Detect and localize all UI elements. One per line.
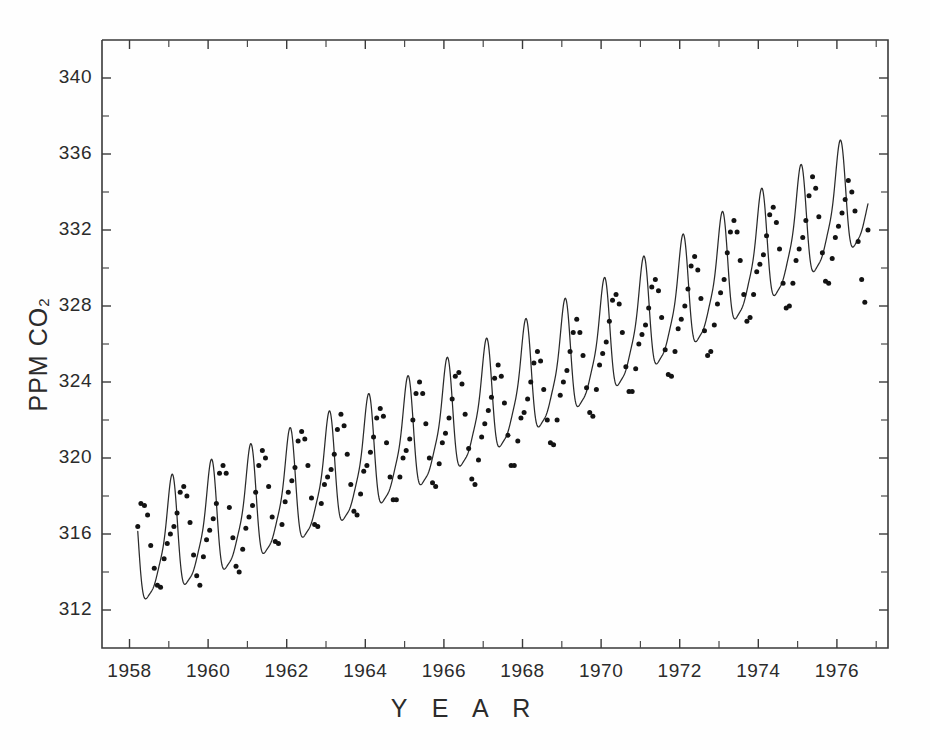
data-point bbox=[184, 494, 189, 499]
data-point bbox=[607, 319, 612, 324]
data-point bbox=[348, 482, 353, 487]
x-tick-label: 1962 bbox=[247, 660, 327, 682]
data-point bbox=[840, 210, 845, 215]
data-point bbox=[643, 323, 648, 328]
data-point bbox=[522, 410, 527, 415]
data-point bbox=[240, 547, 245, 552]
data-point bbox=[450, 397, 455, 402]
data-point bbox=[191, 552, 196, 557]
data-point bbox=[171, 524, 176, 529]
data-point bbox=[482, 421, 487, 426]
data-point bbox=[807, 193, 812, 198]
data-point bbox=[515, 438, 520, 443]
data-point bbox=[787, 304, 792, 309]
data-point bbox=[145, 513, 150, 518]
data-point bbox=[443, 431, 448, 436]
data-point bbox=[728, 229, 733, 234]
data-point bbox=[741, 292, 746, 297]
data-point bbox=[165, 541, 170, 546]
axis-frame-rect bbox=[102, 40, 888, 648]
data-point bbox=[263, 456, 268, 461]
data-point bbox=[836, 224, 841, 229]
data-point bbox=[440, 440, 445, 445]
data-point bbox=[518, 416, 523, 421]
data-point bbox=[472, 482, 477, 487]
data-point bbox=[315, 524, 320, 529]
data-point bbox=[538, 359, 543, 364]
data-point bbox=[561, 380, 566, 385]
data-point bbox=[407, 437, 412, 442]
data-point bbox=[862, 300, 867, 305]
data-point bbox=[849, 190, 854, 195]
data-point bbox=[623, 364, 628, 369]
data-point bbox=[702, 328, 707, 333]
data-point bbox=[292, 465, 297, 470]
data-point bbox=[852, 209, 857, 214]
data-point bbox=[230, 535, 235, 540]
data-point bbox=[355, 513, 360, 518]
data-point bbox=[594, 387, 599, 392]
data-point bbox=[581, 353, 586, 358]
data-point bbox=[545, 418, 550, 423]
data-point bbox=[531, 361, 536, 366]
data-point bbox=[620, 330, 625, 335]
data-point bbox=[685, 286, 690, 291]
data-point bbox=[555, 418, 560, 423]
data-point bbox=[397, 475, 402, 480]
data-point bbox=[459, 381, 464, 386]
data-point bbox=[305, 463, 310, 468]
data-point bbox=[551, 442, 556, 447]
data-point bbox=[790, 281, 795, 286]
data-point bbox=[456, 370, 461, 375]
data-point bbox=[718, 290, 723, 295]
data-point bbox=[764, 233, 769, 238]
data-point bbox=[656, 288, 661, 293]
data-point bbox=[663, 347, 668, 352]
data-point bbox=[237, 570, 242, 575]
y-axis-title: PPM CO2 bbox=[24, 255, 53, 455]
data-point bbox=[332, 452, 337, 457]
x-tick-label: 1976 bbox=[797, 660, 877, 682]
data-point bbox=[256, 463, 261, 468]
data-point bbox=[401, 456, 406, 461]
x-tick-label: 1958 bbox=[90, 660, 170, 682]
data-point bbox=[574, 317, 579, 322]
data-point bbox=[630, 389, 635, 394]
data-point bbox=[342, 423, 347, 428]
data-point bbox=[299, 429, 304, 434]
data-point bbox=[771, 205, 776, 210]
data-point bbox=[820, 250, 825, 255]
data-point bbox=[489, 395, 494, 400]
data-point bbox=[715, 302, 720, 307]
data-point bbox=[381, 414, 386, 419]
data-point bbox=[207, 528, 212, 533]
data-point bbox=[335, 427, 340, 432]
data-point bbox=[794, 258, 799, 263]
data-point bbox=[374, 416, 379, 421]
data-point bbox=[168, 532, 173, 537]
y-tick-label: 332 bbox=[30, 218, 92, 240]
x-tick-label: 1960 bbox=[168, 660, 248, 682]
data-point bbox=[394, 497, 399, 502]
data-point bbox=[754, 269, 759, 274]
data-point bbox=[227, 505, 232, 510]
data-point bbox=[865, 228, 870, 233]
data-point bbox=[420, 391, 425, 396]
data-point bbox=[361, 469, 366, 474]
y-tick-label: 316 bbox=[30, 522, 92, 544]
data-point bbox=[751, 292, 756, 297]
y-axis-title-text: PPM CO bbox=[24, 307, 52, 412]
data-point bbox=[211, 516, 216, 521]
data-point bbox=[639, 332, 644, 337]
data-point bbox=[600, 351, 605, 356]
data-point bbox=[584, 385, 589, 390]
data-point bbox=[604, 340, 609, 345]
data-point bbox=[499, 374, 504, 379]
data-point bbox=[571, 330, 576, 335]
data-point bbox=[266, 484, 271, 489]
data-point bbox=[384, 440, 389, 445]
data-point bbox=[767, 212, 772, 217]
data-point bbox=[329, 467, 334, 472]
data-point bbox=[433, 484, 438, 489]
data-point bbox=[558, 393, 563, 398]
